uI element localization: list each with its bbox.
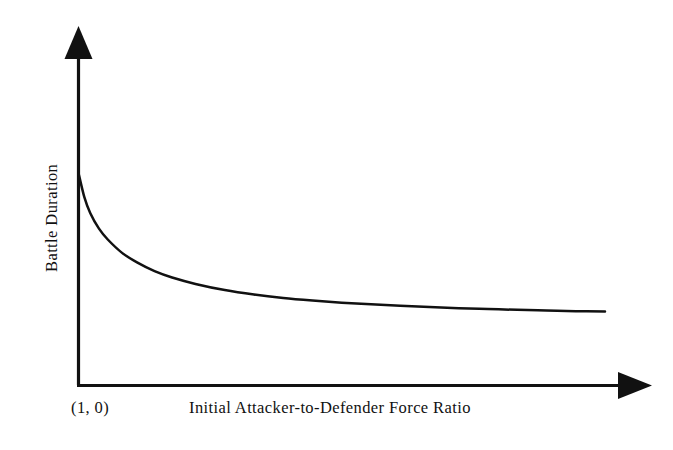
chart-plot-area xyxy=(0,0,673,450)
data-series-line xyxy=(79,173,606,312)
y-axis-label: Battle Duration xyxy=(42,164,62,272)
up-arrowhead-icon xyxy=(65,26,93,59)
origin-coordinate-label: (1, 0) xyxy=(71,398,109,418)
x-axis-label: Initial Attacker-to-Defender Force Ratio xyxy=(189,398,471,418)
right-arrowhead-icon xyxy=(618,372,652,399)
figure-canvas: Battle Duration Initial Attacker-to-Defe… xyxy=(0,0,673,450)
